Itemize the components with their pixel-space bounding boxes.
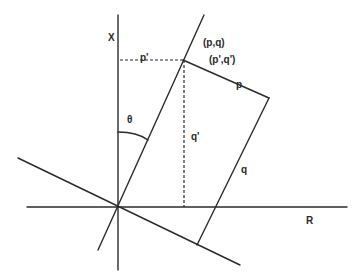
p-label: p xyxy=(236,79,242,90)
p-prime-label: p' xyxy=(140,52,149,63)
rotated-q-axis-line xyxy=(98,15,204,250)
theta-arc xyxy=(118,132,148,140)
theta-label: θ xyxy=(127,114,132,125)
x-axis-label: X xyxy=(108,32,115,43)
point-pq-label: (p,q) xyxy=(203,37,225,48)
rotation-diagram: X R (p,q) (p',q') p' q' p q θ xyxy=(0,0,363,280)
r-axis-label: R xyxy=(306,215,314,226)
rotated-p-axis-line xyxy=(18,158,240,265)
point-pq-prime-label: (p',q') xyxy=(209,54,235,65)
q-segment-line xyxy=(197,98,269,245)
q-label: q xyxy=(241,164,247,175)
q-prime-label: q' xyxy=(191,131,200,142)
p-segment-line xyxy=(183,60,269,98)
